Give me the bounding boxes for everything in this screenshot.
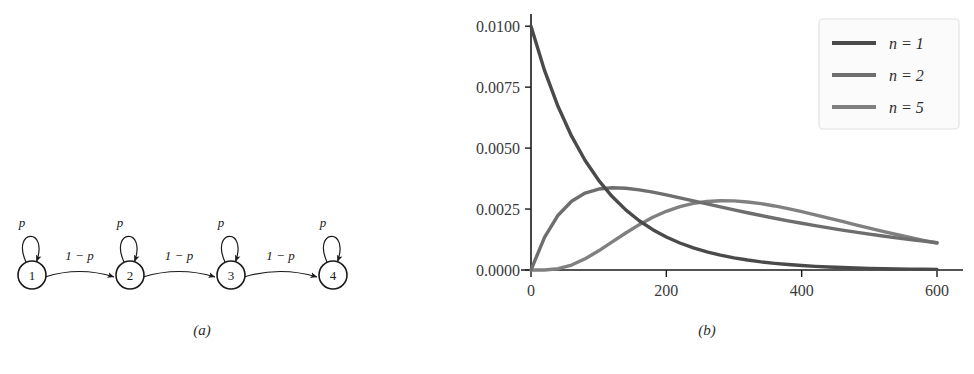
y-tick-label: 0.0075 xyxy=(476,79,520,96)
y-axis-ticks-group: 0.00000.00250.00500.00750.0100 xyxy=(476,18,531,279)
state-node-label: 2 xyxy=(127,268,134,283)
self-loop-arrow xyxy=(120,236,137,262)
x-tick-label: 200 xyxy=(654,282,678,299)
chart-legend: n = 1n = 2n = 5 xyxy=(819,19,959,129)
panel-a-caption: (a) xyxy=(0,322,412,339)
state-node-label: 1 xyxy=(29,268,36,283)
panel-b-chart: 0.00000.00250.00500.00750.0100 020040060… xyxy=(420,0,974,374)
transition-arrow xyxy=(143,272,215,278)
markov-transitions-group: 1 − p1 − p1 − p xyxy=(45,248,317,277)
self-loop-arrow xyxy=(221,236,238,262)
panel-a-markov-chain: 1 − p1 − p1 − p pppp 1234 (a) xyxy=(0,0,420,374)
y-tick-label: 0.0000 xyxy=(476,262,520,279)
transition-label: 1 − p xyxy=(65,248,94,263)
transition-arrow xyxy=(244,272,317,278)
self-loop-label: p xyxy=(116,215,124,230)
self-loop-label: p xyxy=(319,215,327,230)
transition-label: 1 − p xyxy=(165,248,194,263)
figure-container: 1 − p1 − p1 − p pppp 1234 (a) 0.00000.00… xyxy=(0,0,974,374)
transition-label: 1 − p xyxy=(266,248,295,263)
x-tick-label: 400 xyxy=(790,282,814,299)
x-tick-label: 600 xyxy=(925,282,949,299)
self-loop-label: p xyxy=(18,215,26,230)
density-chart-svg: 0.00000.00250.00500.00750.0100 020040060… xyxy=(420,0,974,320)
transition-arrow xyxy=(45,272,114,278)
markov-nodes-group: 1234 xyxy=(18,261,347,289)
state-node-label: 4 xyxy=(330,268,337,283)
legend-label: n = 2 xyxy=(889,67,924,84)
self-loop-label: p xyxy=(217,215,225,230)
x-tick-label: 0 xyxy=(527,282,535,299)
legend-label: n = 5 xyxy=(889,99,924,116)
y-tick-label: 0.0100 xyxy=(476,18,520,35)
x-axis-ticks-group: 0200400600 xyxy=(527,270,949,299)
state-node-label: 3 xyxy=(228,268,235,283)
panel-b-caption: (b) xyxy=(430,322,974,339)
self-loop-arrow xyxy=(323,236,340,262)
y-tick-label: 0.0050 xyxy=(476,140,520,157)
self-loop-arrow xyxy=(22,236,39,262)
y-tick-label: 0.0025 xyxy=(476,201,520,218)
markov-chain-svg: 1 − p1 − p1 − p pppp 1234 xyxy=(0,0,420,320)
legend-label: n = 1 xyxy=(889,35,924,52)
